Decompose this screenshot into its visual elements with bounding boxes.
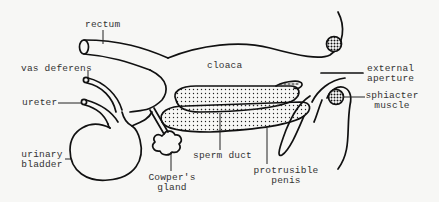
label-cloaca: cloaca (207, 61, 242, 71)
cloaca-wall (168, 12, 343, 58)
cowpers-gland-shape (153, 131, 182, 155)
label-rectum: rectum (85, 20, 120, 30)
rectum-shape (80, 40, 169, 70)
label-urinary-bladder-line2: bladder (20, 160, 64, 170)
urinary-bladder-shape (70, 112, 152, 180)
label-cowpers-gland-line2: gland (144, 183, 200, 193)
label-protrusible-penis-line2: penis (253, 176, 319, 186)
sphincter-muscle-lower (329, 90, 344, 105)
sphincter-muscle-upper (327, 37, 342, 52)
label-ureter: ureter (22, 98, 57, 108)
label-vas-deferens: vas deferens (21, 64, 92, 74)
label-sphincter-muscle-line2: muscle (365, 101, 419, 111)
label-external-aperture-line2: aperture (367, 74, 414, 84)
label-sperm-duct: sperm duct (193, 151, 252, 161)
cloaca-anatomy-diagram: rectum vas deferens ureter urinary bladd… (0, 0, 439, 202)
